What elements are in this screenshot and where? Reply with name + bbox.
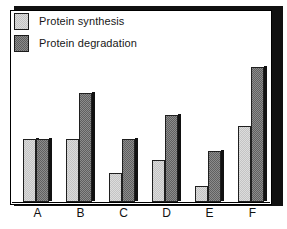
bar-group-a	[23, 32, 49, 202]
bar-group-c	[109, 32, 135, 202]
bar-group-f	[238, 32, 264, 202]
bar-chart-figure: Protein synthesis Protein degradation	[0, 0, 287, 229]
tick-label-b: B	[66, 206, 96, 220]
tick-label-c: C	[109, 206, 139, 220]
bar-synthesis-d	[152, 160, 165, 202]
bar-group-b	[66, 32, 92, 202]
tick-label-f: F	[238, 206, 268, 220]
bar-synthesis-b	[66, 139, 79, 202]
tick-label-e: E	[195, 206, 225, 220]
bar-degradation-a	[36, 139, 49, 202]
bar-degradation-d	[165, 115, 178, 202]
plot-area	[12, 12, 270, 203]
bar-synthesis-a	[23, 139, 36, 202]
bar-synthesis-c	[109, 173, 122, 202]
bar-degradation-c	[122, 139, 135, 202]
bar-group-d	[152, 32, 178, 202]
bar-group-e	[195, 32, 221, 202]
tick-label-d: D	[152, 206, 182, 220]
bar-synthesis-e	[195, 186, 208, 202]
x-axis-line	[12, 202, 270, 204]
bar-degradation-b	[79, 93, 92, 202]
bar-degradation-f	[251, 67, 264, 202]
x-axis-tick-labels: A B C D E F	[12, 206, 270, 226]
bar-degradation-e	[208, 151, 221, 202]
tick-label-a: A	[23, 206, 53, 220]
bar-synthesis-f	[238, 126, 251, 202]
